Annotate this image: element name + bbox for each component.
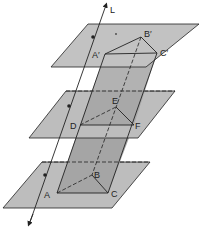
label-B-prime: B′ [144, 29, 152, 39]
top-plane-dot [115, 33, 117, 35]
label-C: C [111, 189, 118, 199]
label-F: F [135, 121, 141, 131]
line-L-bottom-arrow [29, 214, 33, 224]
label-C-prime: C′ [160, 48, 168, 58]
label-E: E [112, 96, 118, 106]
label-A-prime: A′ [92, 50, 100, 60]
label-L: L [110, 5, 115, 15]
line-L-point-bottom [43, 173, 47, 177]
prism-planes-diagram: L A′ B′ C′ D E F A B C [0, 0, 201, 229]
line-L-point-middle [67, 104, 71, 108]
label-D: D [70, 121, 77, 131]
line-L-point-top [91, 35, 95, 39]
top-plane [51, 24, 199, 67]
label-A: A [44, 190, 50, 200]
label-B: B [94, 170, 100, 180]
